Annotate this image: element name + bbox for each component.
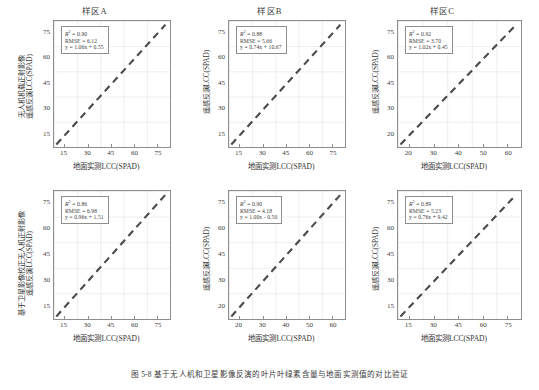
stat-equation: y = 0.74x + 10.67 [240,44,282,51]
stats-box-top-middle: R2 = 0.88 RMSE = 5.66 y = 0.74x + 10.67 [236,26,287,54]
x-tick: 50 [306,321,313,329]
panel-title-c: 样区C [352,4,532,16]
x-tick: 50 [480,149,487,157]
y-tick: 60 [203,53,225,61]
x-tick: 15 [60,321,67,329]
x-tick: 75 [505,321,512,329]
stat-r2: R2 = 0.90 [65,29,104,38]
x-tick: 15 [405,321,412,329]
plot-area-top-left: R2 = 0.90 RMSE = 6.12 y = 1.06x + 0.55 [53,20,171,148]
plot-area-bottom-left: R2 = 0.86 RMSE = 6.98 y = 0.96x + 1.51 [53,190,171,320]
x-tick: 60 [306,149,313,157]
panel-top-middle: 样区B 遥感反演LCC(SPAD) 75 60 45 30 15 R2 = 0.… [183,2,356,182]
y-tick: 45 [372,79,394,87]
y-ticks-top-left: 75 60 45 30 15 [28,20,50,148]
stat-equation: y = 1.00x - 0.50 [240,214,277,221]
x-tick: 45 [107,149,114,157]
y-ticks-bottom-middle: 75 60 45 30 20 [203,190,225,320]
x-tick: 45 [107,321,114,329]
y-tick: 45 [203,250,225,258]
y-tick: 75 [28,198,50,206]
y-tick: 30 [28,104,50,112]
y-tick: 60 [372,224,394,232]
x-tick: 30 [259,321,266,329]
y-tick: 60 [28,224,50,232]
x-tick: 15 [235,149,242,157]
plot-area-bottom-middle: R2 = 0.90 RMSE = 4.18 y = 1.00x - 0.50 [228,190,346,320]
y-tick: 20 [372,130,394,138]
x-axis-label-bottom-left: 地面实测LCC(SPAD) [38,332,175,343]
y-tick: 30 [203,276,225,284]
stat-rmse: RMSE = 5.66 [240,38,282,45]
stat-equation: y = 1.02x + 0.45 [409,44,448,51]
y-tick: 20 [203,302,225,310]
y-tick: 15 [203,130,225,138]
x-tick: 60 [480,321,487,329]
x-tick: 75 [155,149,162,157]
stat-rmse: RMSE = 3.70 [409,38,448,45]
x-tick: 60 [330,321,337,329]
x-axis-label-top-right: 地面实测LCC(SPAD) [382,160,526,171]
x-axis-label-bottom-right: 地面实测LCC(SPAD) [382,332,526,343]
stat-r2: R2 = 0.86 [65,199,104,208]
x-axis-label-bottom-middle: 地面实测LCC(SPAD) [213,332,350,343]
x-tick: 40 [455,149,462,157]
y-tick: 45 [372,250,394,258]
y-tick: 30 [372,276,394,284]
y-tick: 60 [203,224,225,232]
panel-top-right: 样区C 遥感反演LCC(SPAD) 75 60 45 30 20 R2 = 0.… [352,2,532,182]
y-tick: 30 [372,104,394,112]
y-tick: 45 [28,79,50,87]
stats-box-bottom-middle: R2 = 0.90 RMSE = 4.18 y = 1.00x - 0.50 [236,196,282,224]
figure-root: 样区A 无人机机载正射影像遥感反演LCC(SPAD) 75 60 45 30 1… [0,0,539,390]
panel-bottom-left: 基于卫星影像校正无人机正射影像遥感反演LCC(SPAD) 75 60 45 30… [8,182,181,362]
y-tick: 75 [203,28,225,36]
y-tick: 15 [28,302,50,310]
y-tick: 30 [28,276,50,284]
panel-title-a: 样区A [8,4,181,16]
x-tick: 20 [235,321,242,329]
x-tick: 60 [131,321,138,329]
x-tick: 30 [259,149,266,157]
stat-equation: y = 1.06x + 0.55 [65,44,104,51]
stats-box-bottom-left: R2 = 0.86 RMSE = 6.98 y = 0.96x + 1.51 [61,196,109,224]
stat-r2: R2 = 0.90 [240,199,277,208]
figure-caption: 图 5-8 基于无人机和卫星影像反演的叶片叶绿素含量与地面实测值的对比验证 [0,368,539,379]
x-axis-label-top-left: 地面实测LCC(SPAD) [38,160,175,171]
y-tick: 75 [28,28,50,36]
x-tick: 30 [430,321,437,329]
stat-r2: R2 = 0.92 [409,29,448,38]
plot-area-bottom-right: R2 = 0.89 RMSE = 5.23 y = 0.76x + 9.42 [397,190,522,320]
stat-rmse: RMSE = 6.98 [65,208,104,215]
x-tick: 30 [84,149,91,157]
y-ticks-top-middle: 75 60 45 30 15 [203,20,225,148]
panel-top-left: 样区A 无人机机载正射影像遥感反演LCC(SPAD) 75 60 45 30 1… [8,2,181,182]
x-tick: 45 [455,321,462,329]
stat-rmse: RMSE = 4.18 [240,208,277,215]
stats-box-top-left: R2 = 0.90 RMSE = 6.12 y = 1.06x + 0.55 [61,26,109,54]
x-tick: 30 [84,321,91,329]
panel-bottom-middle: 遥感反演LCC(SPAD) 75 60 45 30 20 R2 = 0.90 R… [183,182,356,362]
y-tick: 15 [372,302,394,310]
y-tick: 60 [28,53,50,61]
y-tick: 30 [203,104,225,112]
panel-bottom-right: 遥感反演LCC(SPAD) 75 60 45 30 15 R2 = 0.89 R… [352,182,532,362]
x-tick: 20 [405,149,412,157]
x-tick: 30 [430,149,437,157]
y-ticks-bottom-right: 75 60 45 30 15 [372,190,394,320]
y-tick: 75 [372,198,394,206]
stats-box-bottom-right: R2 = 0.89 RMSE = 5.23 y = 0.76x + 9.42 [405,196,453,224]
panel-title-b: 样区B [183,4,356,16]
y-tick: 45 [203,79,225,87]
y-tick: 75 [203,198,225,206]
x-tick: 75 [330,149,337,157]
x-tick: 60 [131,149,138,157]
stat-r2: R2 = 0.88 [240,29,282,38]
y-ticks-top-right: 75 60 45 30 20 [372,20,394,148]
stat-rmse: RMSE = 5.23 [409,208,448,215]
stat-rmse: RMSE = 6.12 [65,38,104,45]
panel-grid: 样区A 无人机机载正射影像遥感反演LCC(SPAD) 75 60 45 30 1… [0,0,539,362]
x-tick: 40 [282,321,289,329]
plot-area-top-middle: R2 = 0.88 RMSE = 5.66 y = 0.74x + 10.67 [228,20,346,148]
x-axis-label-top-middle: 地面实测LCC(SPAD) [213,160,350,171]
